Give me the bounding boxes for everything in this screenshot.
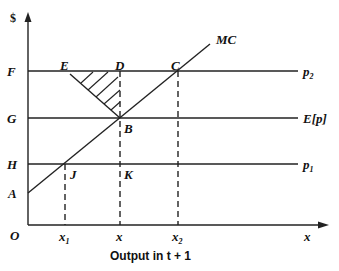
mc-label: MC xyxy=(215,32,237,47)
tick-x: x xyxy=(115,229,123,244)
label-A: A xyxy=(7,186,17,201)
tick-x2: x2 xyxy=(171,229,183,246)
p1-label: p1 xyxy=(302,157,314,174)
point-K: K xyxy=(123,167,134,182)
point-B: B xyxy=(123,121,133,136)
x-axis-caption: Output in t + 1 xyxy=(110,249,191,263)
hatched-triangle-edb xyxy=(70,72,120,118)
y-axis-label: $ xyxy=(10,11,16,25)
x-axis-arrow-icon xyxy=(318,222,329,229)
y-axis-arrow-icon xyxy=(25,12,32,22)
label-H: H xyxy=(6,157,18,172)
origin-label: O xyxy=(10,228,20,243)
point-C: C xyxy=(171,58,180,73)
point-E: E xyxy=(59,58,69,73)
label-F: F xyxy=(6,64,16,79)
x-axis-label: x xyxy=(303,229,311,244)
tick-x1: x1 xyxy=(58,229,70,246)
p2-label: p2 xyxy=(302,64,314,81)
point-J: J xyxy=(69,167,77,182)
marginal-cost-diagram: $ F G H A O E D C B J K MC p2 E[p] p1 x1… xyxy=(0,0,339,271)
point-D: D xyxy=(114,58,125,73)
label-G: G xyxy=(7,111,17,126)
expected-price-label: E[p] xyxy=(302,111,327,126)
